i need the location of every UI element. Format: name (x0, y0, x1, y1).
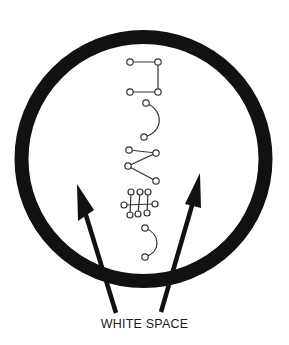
symbol-column (121, 59, 161, 260)
bracket-symbol (127, 59, 161, 95)
arc-symbol-1 (141, 100, 159, 140)
arc-symbol-2 (142, 225, 157, 260)
diagram-caption: WHITE SPACE (0, 317, 289, 331)
right-arrow-icon (161, 173, 201, 312)
left-arrow-icon (77, 184, 116, 313)
white-space-diagram (0, 0, 289, 345)
zigzag-symbol (125, 147, 159, 184)
ladder-symbol (121, 189, 158, 218)
